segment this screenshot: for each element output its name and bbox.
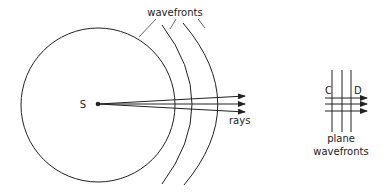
plane-wavefronts-label: wavefronts (313, 146, 368, 157)
plane-wavefronts (332, 70, 351, 132)
plane-label: plane (327, 133, 355, 144)
wavefronts-label: wavefronts (147, 7, 202, 18)
source-label: S (80, 99, 86, 110)
source-point (96, 102, 101, 107)
rays-label: rays (229, 115, 250, 126)
point-c-label: C (325, 85, 332, 96)
point-d-label: D (354, 85, 362, 96)
wavefront-diagram: S wavefronts rays C D plane wavefronts (0, 0, 383, 195)
ray-bottom (98, 104, 245, 112)
ray-top (98, 96, 245, 104)
plane-rays (325, 98, 367, 111)
spherical-rays (98, 96, 245, 112)
wavefront-leaders (139, 19, 205, 37)
